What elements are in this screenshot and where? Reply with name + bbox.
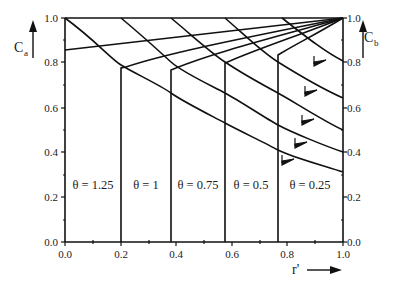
y-tick-label: 0.2 — [347, 191, 361, 203]
y-tick-label: 0.8 — [44, 56, 58, 68]
flow-arrow-icon — [302, 115, 314, 125]
ca-curves — [65, 18, 343, 68]
y-tick-label: 1.0 — [347, 12, 361, 24]
right-arrow-icon — [330, 266, 342, 274]
ticks — [61, 18, 347, 246]
x-tick-label: 0.6 — [225, 248, 239, 260]
x-tick-labels: 0.0 0.2 0.4 0.6 0.8 1.0 — [58, 248, 350, 260]
y-tick-label: 0.0 — [347, 236, 361, 248]
theta-label: θ = 0.25 — [289, 178, 330, 192]
theta-label: θ = 1 — [133, 178, 159, 192]
theta-label: θ = 0.75 — [177, 178, 218, 192]
x-tick-label: 0.4 — [169, 248, 183, 260]
flow-arrow-markers — [282, 56, 326, 165]
up-arrow-icon — [29, 20, 37, 32]
cb-axis-title: C b — [359, 20, 379, 58]
r-axis-title: r' — [292, 262, 342, 277]
svg-text:C: C — [364, 30, 373, 45]
svg-text:b: b — [374, 38, 379, 48]
boundary-line — [225, 61, 230, 242]
x-tick-label: 0.2 — [114, 248, 128, 260]
y-tick-label: 0.2 — [44, 191, 58, 203]
boundary-line — [278, 52, 283, 242]
theta-labels: θ = 1.25 θ = 1 θ = 0.75 θ = 0.5 θ = 0.25 — [72, 178, 330, 192]
x-tick-label: 0.8 — [280, 248, 294, 260]
y-tick-label: 1.0 — [44, 12, 58, 24]
y-tick-label: 0.6 — [347, 102, 361, 114]
ca-axis-title: C a — [14, 20, 37, 58]
theta-label: θ = 0.5 — [234, 178, 269, 192]
svg-text:r': r' — [292, 262, 299, 277]
flow-arrow-icon — [295, 138, 307, 148]
y-right-tick-labels: 0.0 0.2 0.4 0.6 0.8 1.0 — [347, 12, 361, 248]
y-tick-label: 0.6 — [44, 102, 58, 114]
svg-text:a: a — [24, 48, 28, 58]
cb-curve — [121, 18, 343, 152]
chart: 0.0 0.2 0.4 0.6 0.8 1.0 0.0 0.2 0.4 0.6 … — [0, 0, 393, 283]
y-tick-label: 0.8 — [347, 56, 361, 68]
flow-arrow-icon — [305, 86, 317, 96]
x-tick-label: 0.0 — [58, 248, 72, 260]
flow-arrow-icon — [314, 56, 326, 66]
theta-label: θ = 1.25 — [72, 178, 113, 192]
y-tick-label: 0.0 — [44, 236, 58, 248]
y-tick-label: 0.4 — [347, 146, 361, 158]
y-left-tick-labels: 0.0 0.2 0.4 0.6 0.8 1.0 — [44, 12, 58, 248]
x-tick-label: 1.0 — [336, 248, 350, 260]
svg-text:C: C — [14, 40, 23, 55]
plot-frame — [65, 18, 343, 242]
y-tick-label: 0.4 — [44, 146, 58, 158]
boundary-line — [121, 67, 126, 242]
